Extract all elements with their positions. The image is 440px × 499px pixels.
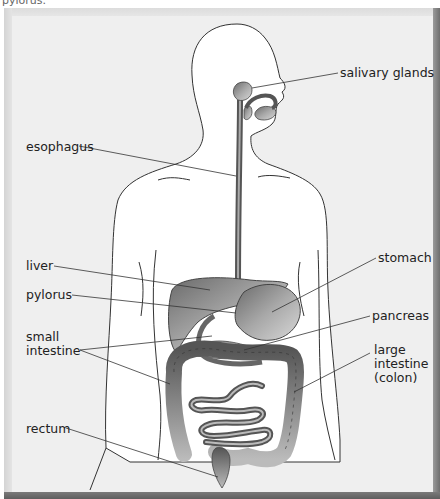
frame-bevel-bottom (4, 492, 440, 499)
frame-bevel-right (433, 8, 440, 499)
body-outline (90, 24, 340, 490)
label-pylorus: pylorus (26, 288, 72, 302)
label-stomach: stomach (378, 251, 432, 265)
label-large-intestine-line2: intestine (374, 357, 429, 371)
label-rectum: rectum (26, 422, 70, 436)
rectum-organ (212, 448, 230, 489)
stomach-organ (235, 284, 300, 340)
label-large-intestine-line3: (colon) (374, 371, 417, 385)
label-small-intestine-line2: intestine (26, 344, 81, 358)
label-pancreas: pancreas (372, 309, 429, 323)
label-large-intestine-line1: large (374, 343, 406, 357)
label-small-intestine-line1: small (26, 330, 59, 344)
label-esophagus: esophagus (26, 140, 94, 154)
label-salivary-glands: salivary glands (340, 66, 434, 80)
label-liver: liver (26, 259, 53, 273)
